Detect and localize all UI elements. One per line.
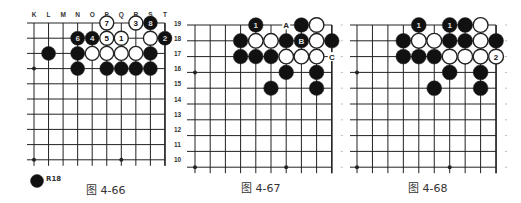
board-fig-4-68: 112 (350, 18, 507, 174)
caption-fig-4-68: 图 4-68 (408, 179, 447, 195)
black-stone-icon (396, 33, 411, 48)
black-stone-icon (279, 34, 294, 49)
black-stone-icon (143, 62, 157, 76)
black-stone-icon (100, 62, 114, 76)
row-label: 11 (174, 141, 181, 148)
black-stone-icon (143, 46, 157, 60)
col-label: T (163, 11, 167, 18)
black-stone-icon (71, 62, 85, 76)
move-number: 2 (163, 34, 168, 43)
point-mark-label: A (283, 21, 289, 30)
black-stone-icon (249, 49, 264, 64)
white-stone-icon (279, 49, 294, 64)
black-stone-icon (442, 33, 457, 48)
caption-fig-4-67: 图 4-67 (241, 179, 280, 195)
move-number: 7 (105, 19, 110, 28)
black-stone-icon (129, 62, 143, 76)
black-stone-icon (458, 18, 473, 33)
black-stone-icon (411, 49, 426, 64)
white-stone-icon (309, 49, 324, 64)
white-stone-icon (442, 49, 457, 64)
black-stone-icon (294, 18, 309, 33)
white-stone-icon (129, 46, 143, 60)
star-point-icon (32, 67, 36, 71)
black-stone-icon (71, 46, 85, 60)
move-number: 3 (134, 19, 139, 28)
board-fig-4-66: KLMNOPQRST1918171615141312111073864512 (27, 11, 182, 188)
legend-label: R18 (46, 175, 61, 183)
white-stone-icon (427, 33, 442, 48)
star-point-icon (355, 165, 359, 169)
col-label: K (32, 11, 37, 18)
move-number: B (299, 37, 305, 46)
white-stone-icon (85, 46, 99, 60)
board-fig-4-67: AC1B (187, 18, 343, 173)
white-stone-icon (309, 34, 324, 49)
white-stone-icon (294, 49, 309, 64)
move-number: 1 (254, 21, 259, 30)
col-label: N (75, 11, 80, 18)
black-stone-icon (264, 81, 279, 96)
black-stone-icon (279, 65, 294, 80)
black-stone-icon (233, 34, 248, 49)
row-label: 19 (174, 20, 182, 27)
white-stone-icon (411, 33, 426, 48)
black-stone-icon (264, 49, 279, 64)
col-label: L (47, 11, 51, 18)
black-stone-icon (309, 65, 324, 80)
white-stone-icon (264, 34, 279, 49)
white-stone-icon (473, 18, 488, 33)
row-label: 18 (174, 35, 182, 42)
white-stone-icon (473, 49, 488, 64)
col-label: M (60, 11, 65, 18)
move-number: 1 (417, 21, 422, 30)
black-stone-icon (325, 34, 340, 49)
star-point-icon (448, 165, 452, 169)
black-stone-icon (233, 49, 248, 64)
move-number: 8 (148, 19, 153, 28)
black-stone-icon (489, 33, 504, 48)
white-stone-icon (143, 31, 157, 45)
col-label: Q (119, 11, 124, 19)
row-label: 12 (174, 126, 182, 133)
row-label: 17 (174, 50, 182, 57)
white-stone-icon (100, 46, 114, 60)
row-label: 10 (174, 156, 182, 163)
star-point-icon (355, 70, 359, 74)
star-point-icon (193, 165, 197, 169)
black-stone-icon (442, 65, 457, 80)
move-number: 1 (119, 34, 124, 43)
row-label: 16 (174, 65, 182, 72)
star-point-icon (32, 158, 36, 162)
black-stone-icon (458, 33, 473, 48)
star-point-icon (193, 70, 197, 74)
white-stone-icon (309, 18, 324, 33)
row-label: 14 (174, 96, 182, 103)
black-stone-icon (396, 49, 411, 64)
black-stone-icon (427, 81, 442, 96)
black-stone-icon (473, 81, 488, 96)
move-number: 4 (90, 34, 95, 43)
star-point-icon (119, 158, 123, 162)
black-stone-icon (473, 65, 488, 80)
caption-fig-4-66: 图 4-66 (86, 181, 125, 197)
white-stone-icon (473, 33, 488, 48)
white-stone-icon (249, 34, 264, 49)
black-stone-icon (42, 46, 56, 60)
star-point-icon (284, 165, 288, 169)
col-label: O (90, 11, 95, 18)
move-number: 2 (494, 53, 499, 62)
black-stone-icon (427, 49, 442, 64)
white-stone-icon (114, 46, 128, 60)
move-number: 6 (75, 34, 80, 43)
row-label: 15 (174, 80, 182, 87)
row-label: 13 (174, 111, 182, 118)
black-stone-icon (309, 81, 324, 96)
go-diagrams: KLMNOPQRST1918171615141312111073864512AC… (0, 0, 521, 203)
point-mark-label: C (329, 53, 335, 62)
black-stone-icon (114, 62, 128, 76)
move-number: 1 (447, 21, 452, 30)
white-stone-icon (458, 49, 473, 64)
legend-black-stone-icon (31, 175, 44, 188)
move-number: 5 (105, 34, 110, 43)
